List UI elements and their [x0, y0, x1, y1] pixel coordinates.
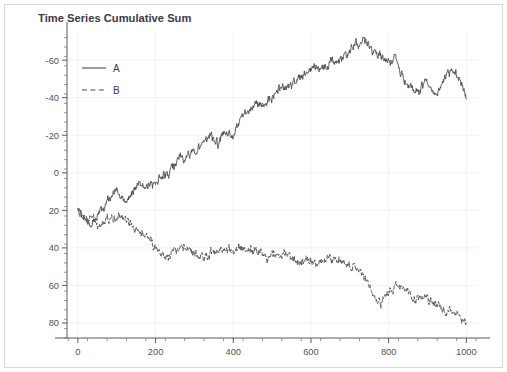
- series-line-b: [78, 209, 466, 325]
- data-series-layer: [78, 37, 466, 325]
- legend-label-b: B: [113, 85, 120, 96]
- y-tick-label: 80: [49, 318, 59, 328]
- chart-canvas: 806040200-20-40-6002004006008001000 AB T…: [0, 0, 507, 372]
- x-tick-label: 0: [75, 347, 80, 357]
- x-tick-label: 600: [303, 347, 319, 357]
- y-tick-label: 0: [54, 168, 59, 178]
- x-tick-label: 800: [381, 347, 397, 357]
- axis-spines: [55, 22, 490, 338]
- axis-tick-labels: 806040200-20-40-6002004006008001000: [46, 56, 477, 357]
- y-tick-label: 60: [49, 281, 59, 291]
- y-tick-label: -20: [46, 131, 59, 141]
- series-line-a: [78, 37, 466, 227]
- y-tick-label: -40: [46, 93, 59, 103]
- chart-title: Time Series Cumulative Sum: [38, 12, 191, 24]
- y-tick-label: -60: [46, 56, 59, 66]
- y-tick-label: 20: [49, 206, 59, 216]
- x-tick-label: 200: [148, 347, 164, 357]
- x-tick-label: 1000: [456, 347, 477, 357]
- chart-legend: AB: [82, 63, 120, 96]
- grid-layer: [67, 32, 478, 338]
- legend-label-a: A: [113, 63, 120, 74]
- chart-figure: 806040200-20-40-6002004006008001000 AB T…: [0, 0, 507, 372]
- x-tick-label: 400: [226, 347, 242, 357]
- y-tick-label: 40: [49, 243, 59, 253]
